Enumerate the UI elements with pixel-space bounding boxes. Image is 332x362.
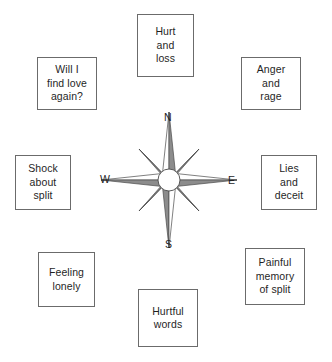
concept-box-lies-and-deceit[interactable]: Lies and deceit xyxy=(261,155,317,210)
compass-label-north: N xyxy=(164,112,172,123)
concept-box-anger-and-rage[interactable]: Anger and rage xyxy=(241,57,301,110)
concept-box-hurtful-words[interactable]: Hurtful words xyxy=(138,289,198,347)
concept-box-will-i-find-love-again[interactable]: Will I find love again? xyxy=(37,57,97,110)
compass-label-south: S xyxy=(165,239,172,250)
compass-label-east: E xyxy=(228,175,235,186)
clipped-caption xyxy=(0,351,332,362)
concept-box-label: Shock about split xyxy=(28,162,58,202)
compass-rose-icon xyxy=(96,108,242,252)
compass-label-west: W xyxy=(100,174,110,185)
concept-box-label: Feeling lonely xyxy=(49,266,84,293)
concept-box-label: Will I find love again? xyxy=(47,63,87,103)
concept-box-shock-about-split[interactable]: Shock about split xyxy=(15,155,71,210)
concept-box-label: Lies and deceit xyxy=(275,162,304,202)
diagram-canvas: Hurt and loss Will I find love again? An… xyxy=(0,0,332,362)
concept-box-label: Painful memory of split xyxy=(256,256,295,296)
concept-box-label: Hurtful words xyxy=(152,305,184,332)
concept-box-label: Anger and rage xyxy=(257,63,286,103)
concept-box-feeling-lonely[interactable]: Feeling lonely xyxy=(38,252,95,307)
concept-box-label: Hurt and loss xyxy=(155,25,175,65)
concept-box-hurt-and-loss[interactable]: Hurt and loss xyxy=(137,14,194,77)
concept-box-painful-memory-of-split[interactable]: Painful memory of split xyxy=(245,248,305,305)
